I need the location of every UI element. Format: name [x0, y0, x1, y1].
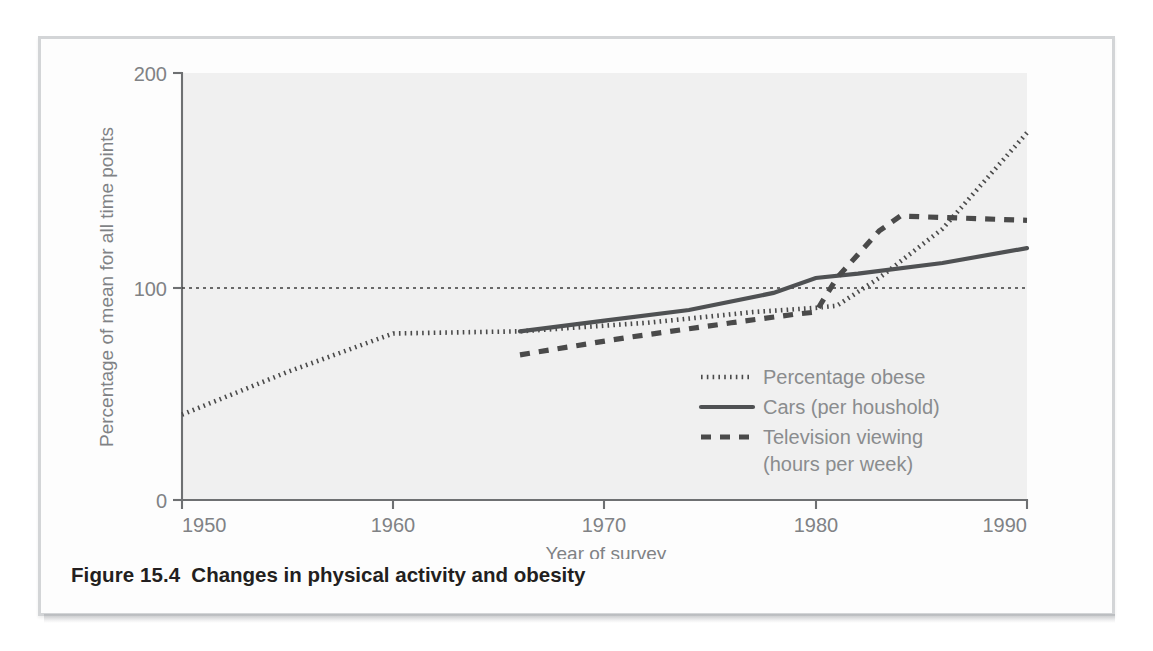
figure-inner: 200 100 0 1950 1960 1970 1980 1990 Year — [41, 39, 1112, 613]
figure-caption-text: Changes in physical activity and obesity — [191, 563, 585, 586]
scan-edge-shadow — [44, 614, 1115, 623]
x-axis-title: Year of survey — [546, 543, 667, 559]
x-tick-label-1990: 1990 — [983, 514, 1028, 536]
figure-caption: Figure 15.4Changes in physical activity … — [71, 563, 586, 587]
x-tick-label-1960: 1960 — [371, 514, 416, 536]
figure-box: 200 100 0 1950 1960 1970 1980 1990 Year — [38, 36, 1115, 616]
legend-label-cars: Cars (per houshold) — [763, 396, 940, 418]
y-tick-label-0: 0 — [156, 490, 167, 512]
y-tick-label-100: 100 — [134, 278, 167, 300]
page-root: 200 100 0 1950 1960 1970 1980 1990 Year — [0, 0, 1153, 651]
legend-label-television-viewing: Television viewing — [763, 426, 923, 448]
x-tick-label-1950: 1950 — [182, 514, 227, 536]
y-tick-label-200: 200 — [134, 63, 167, 85]
legend-label-television-viewing-units: (hours per week) — [763, 453, 913, 475]
legend-label-percentage-obese: Percentage obese — [763, 366, 925, 388]
y-axis-title: Percentage of mean for all time points — [96, 127, 117, 447]
line-chart: 200 100 0 1950 1960 1970 1980 1990 Year — [41, 39, 1112, 559]
figure-caption-number: Figure 15.4 — [71, 563, 180, 586]
x-tick-label-1980: 1980 — [794, 514, 839, 536]
chart-area: 200 100 0 1950 1960 1970 1980 1990 Year — [41, 39, 1112, 559]
x-tick-label-1970: 1970 — [582, 514, 627, 536]
